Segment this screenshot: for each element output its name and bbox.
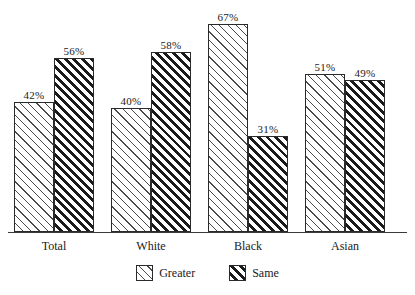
bar-same-asian[interactable]: 49% [345, 80, 385, 232]
x-axis-category-labels: Total White Black Asian [0, 238, 415, 258]
bar-same-white[interactable]: 58% [151, 52, 191, 232]
x-tick-label-asian: Asian [295, 238, 395, 254]
bar-chart: 42% 56% 40% 58% 67% 31% [0, 0, 415, 295]
bar-value-label: 31% [258, 123, 279, 135]
legend-label-greater: Greater [159, 266, 195, 280]
bar-same-total[interactable]: 56% [54, 58, 94, 232]
legend-swatch-greater-icon [136, 265, 153, 281]
legend-label-same: Same [252, 266, 279, 280]
bar-greater-total[interactable]: 42% [14, 102, 54, 232]
bar-value-label: 67% [218, 11, 239, 23]
bar-value-label: 56% [64, 45, 85, 57]
x-tick-label-total: Total [4, 238, 104, 254]
bar-value-label: 51% [315, 61, 336, 73]
legend-swatch-same-icon [229, 265, 246, 281]
plot-area: 42% 56% 40% 58% 67% 31% [0, 0, 415, 236]
chart-legend: Greater Same [0, 261, 415, 285]
bar-greater-asian[interactable]: 51% [305, 74, 345, 232]
bar-value-label: 49% [355, 67, 376, 79]
x-tick-label-black: Black [198, 238, 298, 254]
legend-item-same[interactable]: Same [229, 265, 279, 281]
bar-value-label: 40% [121, 95, 142, 107]
bar-value-label: 58% [161, 39, 182, 51]
x-tick-label-white: White [101, 238, 201, 254]
bar-greater-black[interactable]: 67% [208, 24, 248, 232]
bar-same-black[interactable]: 31% [248, 136, 288, 232]
bar-value-label: 42% [24, 89, 45, 101]
legend-item-greater[interactable]: Greater [136, 265, 195, 281]
x-axis-line [8, 232, 407, 233]
bar-greater-white[interactable]: 40% [111, 108, 151, 232]
